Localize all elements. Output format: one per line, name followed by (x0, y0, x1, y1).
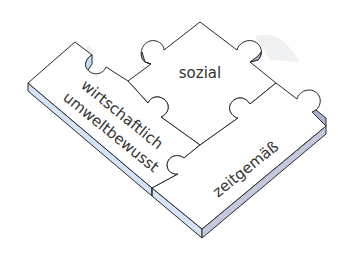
shadow (255, 35, 300, 63)
puzzle-diagram: sozial wirtschaftlich umweltbewusst zeit… (0, 0, 354, 259)
label-sozial: sozial (179, 64, 221, 82)
